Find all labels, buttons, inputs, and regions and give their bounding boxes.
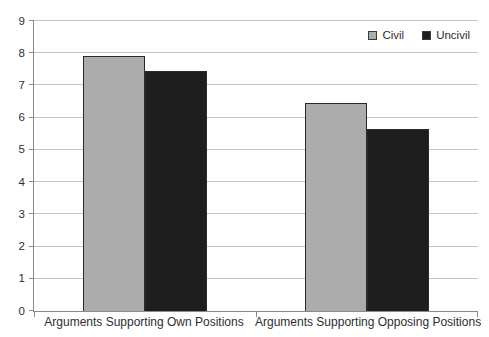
- legend-label: Uncivil: [436, 29, 470, 41]
- y-axis-tick: [29, 310, 34, 311]
- y-axis-tick: [29, 181, 34, 182]
- y-axis-tick-label: 6: [5, 112, 25, 124]
- bar-uncivil-1: [367, 129, 429, 311]
- y-axis-tick: [29, 149, 34, 150]
- y-axis-tick-label: 2: [5, 241, 25, 253]
- bar-chart-figure: 0123456789 CivilUncivil Arguments Suppor…: [0, 0, 489, 337]
- y-axis-tick: [29, 246, 34, 247]
- y-axis-tick-label: 3: [5, 209, 25, 221]
- y-axis-tick: [29, 117, 34, 118]
- y-axis-tick: [29, 52, 34, 53]
- y-axis-tick-label: 4: [5, 176, 25, 188]
- bar-civil-1: [305, 103, 367, 311]
- gridline: [34, 52, 478, 53]
- y-axis-tick: [29, 20, 34, 21]
- bar-uncivil-0: [145, 71, 207, 311]
- x-category-label: Arguments Supporting Opposing Positions: [255, 315, 477, 329]
- gridline: [34, 20, 478, 21]
- x-axis-labels: Arguments Supporting Own PositionsArgume…: [33, 315, 477, 333]
- plot-area: 0123456789 CivilUncivil: [33, 21, 478, 312]
- y-axis-tick: [29, 278, 34, 279]
- bar-civil-0: [83, 56, 145, 311]
- legend-swatch-uncivil: [422, 31, 431, 40]
- y-axis-tick-label: 0: [5, 305, 25, 317]
- legend-item-uncivil: Uncivil: [422, 29, 470, 41]
- legend-item-civil: Civil: [368, 29, 404, 41]
- y-axis-tick-label: 8: [5, 47, 25, 59]
- y-axis-tick-label: 7: [5, 80, 25, 92]
- legend-swatch-civil: [368, 31, 377, 40]
- y-axis-tick-label: 9: [5, 15, 25, 27]
- y-axis-tick-label: 5: [5, 144, 25, 156]
- y-axis-tick-label: 1: [5, 273, 25, 285]
- legend: CivilUncivil: [368, 29, 470, 41]
- x-category-label: Arguments Supporting Own Positions: [33, 315, 255, 329]
- legend-label: Civil: [382, 29, 404, 41]
- y-axis-tick: [29, 213, 34, 214]
- y-axis-tick: [29, 84, 34, 85]
